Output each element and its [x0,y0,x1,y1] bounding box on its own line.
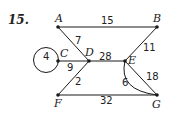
weight-d-f: 2 [75,76,81,87]
label-g: G [152,98,161,111]
label-b: B [152,12,161,25]
weight-f-g: 32 [100,95,113,106]
weight-e-g-straight: 18 [146,71,159,82]
node-e [123,59,127,63]
label-e: E [127,54,136,67]
edges [34,27,158,95]
node-a [56,25,60,29]
node-d [87,59,91,63]
problem-number: 15. [8,13,29,27]
weight-c-loop: 4 [43,51,49,62]
node-g [155,93,159,97]
label-d: D [84,46,94,59]
weight-e-g-curved: 6 [122,77,128,88]
weight-c-d: 9 [67,62,73,73]
label-a: A [54,12,63,25]
graph-diagram: 15. A B C D E F G 15 7 4 9 28 11 2 [0,0,170,114]
node-b [155,25,159,29]
label-c: C [60,47,69,60]
weight-a-d: 7 [75,35,81,46]
label-f: F [53,97,62,110]
edge-d-f [58,61,89,95]
weight-a-b: 15 [101,15,114,26]
weight-b-e: 11 [143,42,156,53]
weight-d-e: 28 [99,51,112,62]
